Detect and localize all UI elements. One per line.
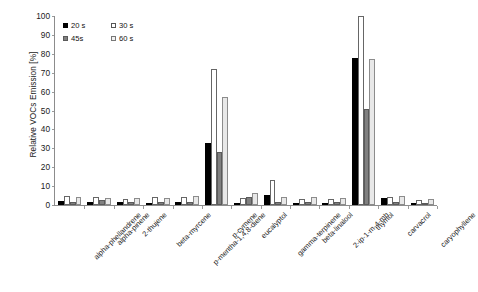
bar <box>281 197 287 205</box>
y-axis-tick-label: 60 <box>28 88 50 96</box>
bar-group <box>234 16 258 205</box>
y-axis-tick-label: 40 <box>28 125 50 133</box>
bar-group <box>322 16 346 205</box>
bar-group <box>175 16 199 205</box>
bar <box>222 97 228 205</box>
bar-group <box>381 16 405 205</box>
bar <box>311 197 317 205</box>
y-axis-tick-label: 10 <box>28 182 50 190</box>
x-axis-tick-mark <box>408 206 409 209</box>
legend-label: 30 s <box>119 22 133 29</box>
bar <box>399 196 405 205</box>
x-axis-tick-label: eucalyptol <box>260 211 289 240</box>
y-axis-tick-label: 70 <box>28 69 50 77</box>
legend-entry: 30 s <box>111 22 167 29</box>
y-axis-tick-label: 90 <box>28 31 50 39</box>
bar <box>164 198 170 205</box>
bar <box>340 198 346 205</box>
bar-group <box>146 16 170 205</box>
legend-entry: 20 s <box>63 22 111 29</box>
chart-legend: 20 s30 s45s60 s <box>63 22 181 42</box>
x-axis-tick-mark <box>319 206 320 209</box>
bar-group <box>293 16 317 205</box>
x-axis-tick-mark <box>261 206 262 209</box>
y-axis-tick-label: 100 <box>28 12 50 20</box>
x-axis-tick-label: p-cymene <box>230 211 259 240</box>
x-axis-tick-mark <box>84 206 85 209</box>
bar <box>252 193 258 205</box>
x-axis-tick-label: gamma-terpinene <box>296 211 343 258</box>
y-axis-tick-label: 50 <box>28 107 50 115</box>
x-axis-tick-mark <box>202 206 203 209</box>
bar-group <box>117 16 141 205</box>
x-axis-tick-label: carvacrol <box>406 211 433 238</box>
x-axis-tick-mark <box>173 206 174 209</box>
legend-entry: 60 s <box>111 35 167 42</box>
y-axis-tick-label: 80 <box>28 50 50 58</box>
x-axis-tick-label: alpha-phellandrene <box>92 211 142 261</box>
legend-swatch-icon <box>111 36 116 41</box>
bars-area <box>55 16 437 205</box>
x-axis-tick-mark <box>349 206 350 209</box>
legend-swatch-icon <box>111 23 116 28</box>
x-axis-tick-label: beta-myrcene <box>175 211 213 249</box>
bar <box>105 198 111 205</box>
bar <box>428 199 434 205</box>
x-axis-tick-label: caryophyllene <box>440 211 478 249</box>
legend-label: 20 s <box>71 22 85 29</box>
bar-group <box>87 16 111 205</box>
x-axis-tick-mark <box>114 206 115 209</box>
x-axis-tick-mark <box>378 206 379 209</box>
bar <box>193 196 199 205</box>
x-axis-tick-label: alpha-pinene <box>116 211 152 247</box>
y-axis-tick-label: 20 <box>28 163 50 171</box>
bar-group <box>58 16 82 205</box>
bar-group <box>352 16 376 205</box>
x-axis-tick-label: thymol <box>374 211 395 232</box>
legend-swatch-icon <box>63 36 68 41</box>
x-axis-tick-mark <box>290 206 291 209</box>
legend-entry: 45s <box>63 35 111 42</box>
x-axis-tick-label: beta-linalool <box>320 211 354 245</box>
x-axis-line <box>54 205 437 206</box>
y-axis-tick-label: 30 <box>28 144 50 152</box>
bar-group <box>205 16 229 205</box>
y-axis-tick-label: 0 <box>28 201 50 209</box>
x-axis-tick-mark <box>437 206 438 209</box>
x-axis-tick-mark <box>143 206 144 209</box>
bar <box>134 198 140 205</box>
x-axis-tick-label: p-mentha-1,4,8-diene <box>212 211 268 267</box>
x-axis-tick-mark <box>231 206 232 209</box>
bar <box>76 197 82 205</box>
x-axis-tick-label: 2-thujene <box>141 211 168 238</box>
legend-label: 60 s <box>119 35 133 42</box>
bar-group <box>411 16 435 205</box>
legend-label: 45s <box>71 35 83 42</box>
bar-group <box>264 16 288 205</box>
legend-swatch-icon <box>63 23 68 28</box>
x-axis-tick-label: 2-ip-1-m-4-mb <box>352 211 391 250</box>
bar <box>369 59 375 205</box>
